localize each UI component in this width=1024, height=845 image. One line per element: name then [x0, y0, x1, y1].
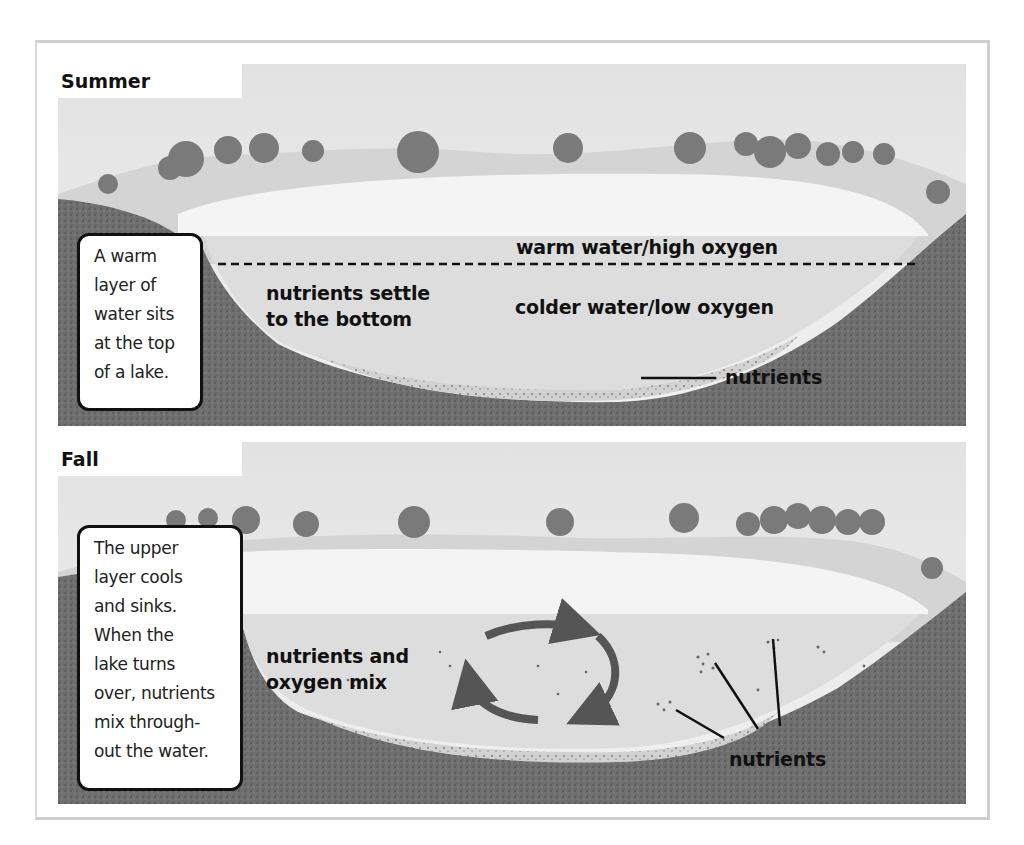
summer-upper-layer-label: warm water/high oxygen [516, 234, 778, 260]
fall-callout: The upper layer cools and sinks. When th… [77, 525, 243, 791]
summer-settle-label: nutrients settle to the bottom [266, 280, 430, 332]
summer-callout: A warm layer of water sits at the top of… [77, 233, 203, 411]
fall-title: Fall [58, 442, 242, 476]
fall-nutrients-label: nutrients [729, 746, 826, 772]
summer-lower-layer-label: colder water/low oxygen [515, 294, 774, 320]
summer-nutrients-label: nutrients [725, 364, 822, 390]
fall-mix-label: nutrients and oxygen mix [266, 643, 409, 695]
summer-title: Summer [58, 64, 242, 98]
